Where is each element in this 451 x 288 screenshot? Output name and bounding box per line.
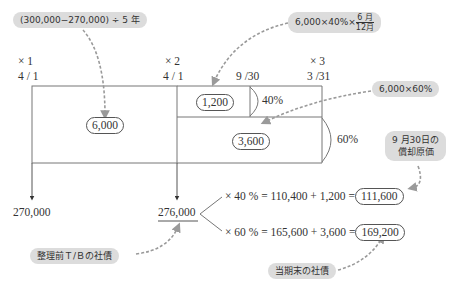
x2-value: 276,000 <box>158 206 195 218</box>
pct40-label: 40% <box>262 94 283 106</box>
pct60-label: 60% <box>337 133 358 145</box>
annual-amortization-callout: (300,000−270,000) ÷ 5 年 <box>13 12 147 28</box>
year-x1-label: × 1 <box>18 55 33 67</box>
result-60-pill: 169,200 <box>355 224 404 241</box>
result-40-pill: 111,600 <box>355 188 404 205</box>
date-x1-label: 4 / 1 <box>18 70 38 82</box>
date-x3-label: 3 /31 <box>307 70 330 82</box>
year-x2-label: × 2 <box>165 55 180 67</box>
date-x2-label: 4 / 1 <box>163 70 183 82</box>
months-fraction: 6 月12月 <box>356 13 374 32</box>
diagram-lines <box>0 0 451 288</box>
sixty-amount-pill: 3,600 <box>232 133 270 150</box>
date-mid-label: 9 /30 <box>236 70 259 82</box>
amortized-cost-callout: 9 月30日の 償却原価 <box>385 131 446 161</box>
half-year-prefix: 6,000×40%× <box>295 17 356 27</box>
start-value: 270,000 <box>13 206 50 218</box>
period-end-bonds-callout: 当期末の社債 <box>268 263 336 279</box>
pre-trial-balance-callout: 整理前Ｔ/Ｂの社債 <box>30 248 119 264</box>
equation-60: × 60 % = 165,600 + 3,600 =169,200 <box>225 224 405 241</box>
equation-40: × 40 % = 110,400 + 1,200 =111,600 <box>225 188 404 205</box>
annual-amount-pill: 6,000 <box>86 117 124 134</box>
sixty-percent-callout: 6,000×60% <box>372 81 439 97</box>
year-x3-label: × 3 <box>310 55 325 67</box>
half-year-callout: 6,000×40%×6 月12月 <box>288 12 381 33</box>
half-year-amount-pill: 1,200 <box>196 94 234 111</box>
